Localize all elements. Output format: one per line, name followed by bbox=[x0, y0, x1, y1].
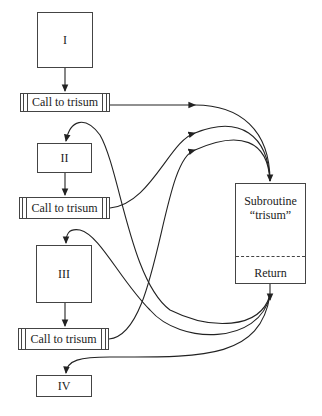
subroutine-divider bbox=[236, 256, 305, 257]
block-label: II bbox=[61, 151, 69, 166]
subroutine-title: Subroutine “trisum” bbox=[236, 194, 305, 222]
block-label: I bbox=[63, 33, 67, 48]
call-trisum-3: Call to trisum bbox=[18, 328, 109, 350]
call-label: Call to trisum bbox=[31, 332, 97, 347]
subroutine-title-line1: Subroutine bbox=[236, 194, 305, 208]
subroutine-trisum: Subroutine “trisum” Return bbox=[235, 183, 306, 284]
subroutine-title-line2: “trisum” bbox=[236, 208, 305, 222]
call-label: Call to trisum bbox=[32, 201, 98, 216]
call-trisum-1: Call to trisum bbox=[20, 93, 110, 112]
call-label: Call to trisum bbox=[32, 95, 98, 110]
block-label: III bbox=[58, 267, 70, 282]
call-trisum-2: Call to trisum bbox=[19, 197, 110, 219]
block-II: II bbox=[37, 143, 92, 173]
block-III: III bbox=[36, 245, 92, 303]
block-label: IV bbox=[58, 379, 71, 394]
subroutine-return: Return bbox=[236, 266, 305, 281]
block-IV: IV bbox=[36, 375, 92, 397]
block-I: I bbox=[37, 12, 93, 68]
